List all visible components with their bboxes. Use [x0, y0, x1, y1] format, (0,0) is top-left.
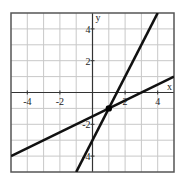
y-axis-label: y: [96, 12, 101, 23]
x-tick-label: 4: [155, 96, 160, 107]
y-tick-label: 2: [86, 56, 91, 67]
y-tick-label: 4: [86, 24, 91, 35]
x-tick-label: -2: [56, 96, 64, 107]
intersection-point: [106, 105, 112, 111]
coordinate-graph: -4-22442-2-4xy: [0, 0, 184, 181]
x-tick-label: -4: [23, 96, 31, 107]
x-axis-label: x: [167, 81, 172, 92]
